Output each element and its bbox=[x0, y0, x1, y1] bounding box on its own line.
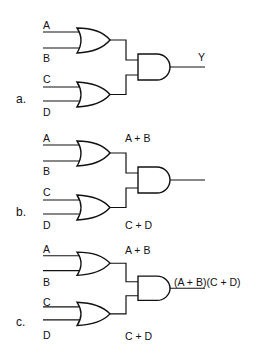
panel-label-a: a. bbox=[16, 93, 26, 105]
input-label-c: C bbox=[43, 74, 51, 85]
panel-label-c: c. bbox=[16, 316, 25, 328]
or-output-label-ab: A + B bbox=[125, 245, 150, 256]
input-label-b: B bbox=[43, 53, 50, 64]
output-label-y: Y bbox=[198, 52, 205, 63]
input-label-d: D bbox=[43, 330, 51, 341]
or-output-label-ab: A + B bbox=[125, 133, 150, 144]
circuit-c bbox=[43, 252, 205, 325]
input-label-b: B bbox=[43, 277, 50, 288]
or-output-label-cd: C + D bbox=[125, 220, 152, 231]
or-output-label-cd: C + D bbox=[125, 331, 152, 342]
panel-label-b: b. bbox=[16, 206, 26, 218]
input-label-d: D bbox=[43, 220, 51, 231]
input-label-a: A bbox=[43, 20, 50, 31]
circuit-a bbox=[43, 28, 205, 107]
input-label-a: A bbox=[43, 133, 50, 144]
input-label-b: B bbox=[43, 166, 50, 177]
and-output-label: (A + B)(C + D) bbox=[174, 277, 241, 288]
logic-diagram bbox=[0, 0, 259, 361]
input-label-a: A bbox=[43, 244, 50, 255]
input-label-d: D bbox=[43, 107, 51, 118]
input-label-c: C bbox=[43, 187, 51, 198]
circuit-b bbox=[43, 141, 205, 220]
input-label-c: C bbox=[43, 297, 51, 308]
